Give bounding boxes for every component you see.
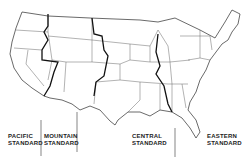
state-lines	[14, 16, 212, 112]
central-standard-label: CENTRAL STANDARD	[132, 133, 167, 147]
central-eastern-boundary	[156, 34, 172, 112]
eastern-line2: STANDARD	[207, 140, 242, 147]
us-outline	[10, 10, 240, 138]
central-line1: CENTRAL	[132, 133, 167, 140]
mountain-standard-label: MOUNTAIN STANDARD	[44, 133, 79, 147]
eastern-standard-label: EASTERN STANDARD	[207, 133, 242, 147]
pacific-mountain-boundary	[42, 14, 58, 96]
time-zone-boundaries	[42, 14, 172, 112]
pacific-line1: PACIFIC	[8, 133, 43, 140]
mountain-line2: STANDARD	[44, 140, 79, 147]
central-line2: STANDARD	[132, 140, 167, 147]
mountain-line1: MOUNTAIN	[44, 133, 79, 140]
eastern-line1: EASTERN	[207, 133, 242, 140]
pacific-standard-label: PACIFIC STANDARD	[8, 133, 43, 147]
mountain-central-boundary	[92, 18, 108, 96]
pacific-line2: STANDARD	[8, 140, 43, 147]
